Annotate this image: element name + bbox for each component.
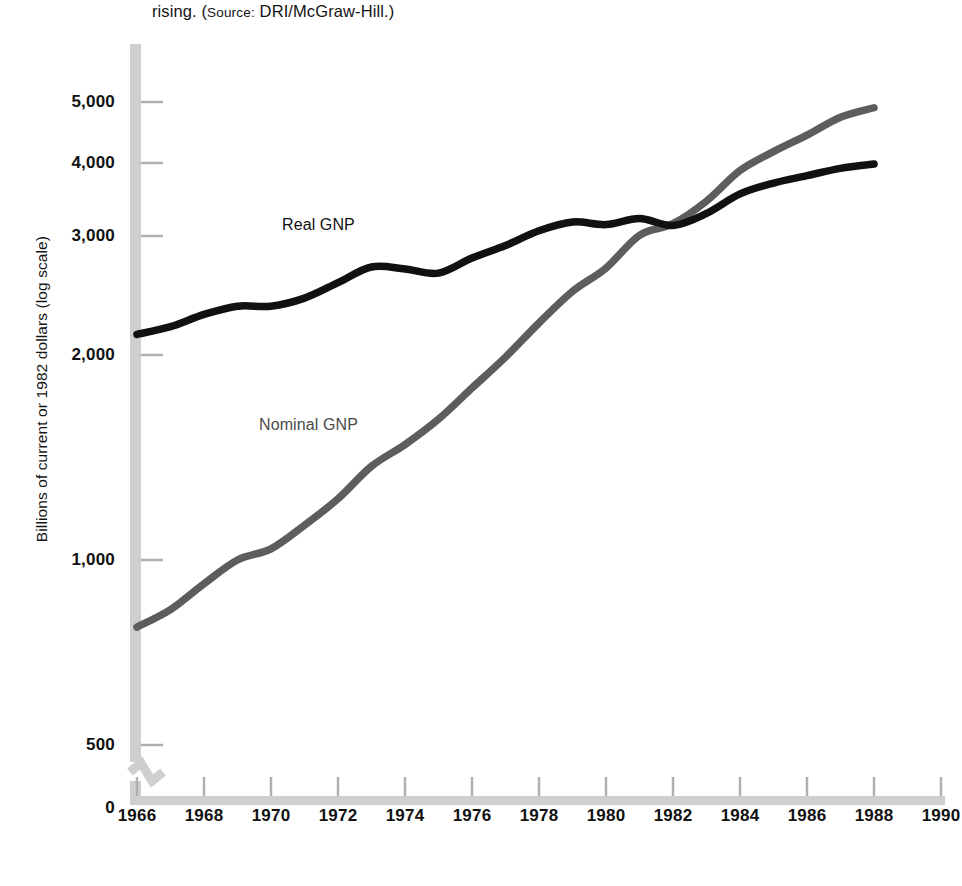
x-tick-marks: [137, 777, 941, 796]
x-tick-label-1990: 1990: [906, 806, 962, 826]
x-tick-label-1966: 1966: [102, 806, 172, 826]
gnp-line-chart: Billions of current or 1982 dollars (log…: [0, 0, 962, 886]
y-tick-marks: [141, 102, 163, 745]
series-label-real-gnp: Real GNP: [282, 216, 355, 234]
x-tick-label-1968: 1968: [169, 806, 239, 826]
y-axis-label-text: Billions of current or 1982 dollars (log…: [33, 236, 50, 542]
x-tick-label-1978: 1978: [504, 806, 574, 826]
y-tick-label-4000: 4,000: [35, 153, 115, 173]
x-tick-label-1982: 1982: [638, 806, 708, 826]
y-axis-spine: [130, 44, 141, 762]
axis-break-marker: [130, 763, 163, 781]
x-tick-label-1986: 1986: [772, 806, 842, 826]
y-tick-label-3000: 3,000: [35, 226, 115, 246]
x-tick-label-1988: 1988: [839, 806, 909, 826]
x-tick-label-1984: 1984: [705, 806, 775, 826]
y-tick-label-2000: 2,000: [35, 345, 115, 365]
x-tick-label-1980: 1980: [571, 806, 641, 826]
x-tick-label-1972: 1972: [303, 806, 373, 826]
plot-canvas: [0, 0, 962, 886]
x-tick-label-1976: 1976: [437, 806, 507, 826]
x-axis-spine: [130, 796, 945, 805]
y-tick-label-5000: 5,000: [35, 92, 115, 112]
y-tick-label-500: 500: [35, 735, 115, 755]
real-gnp-line: [137, 164, 874, 334]
y-tick-label-1000: 1,000: [35, 550, 115, 570]
series-label-nominal-gnp: Nominal GNP: [259, 416, 358, 434]
x-tick-label-1970: 1970: [236, 806, 306, 826]
x-tick-label-1974: 1974: [370, 806, 440, 826]
